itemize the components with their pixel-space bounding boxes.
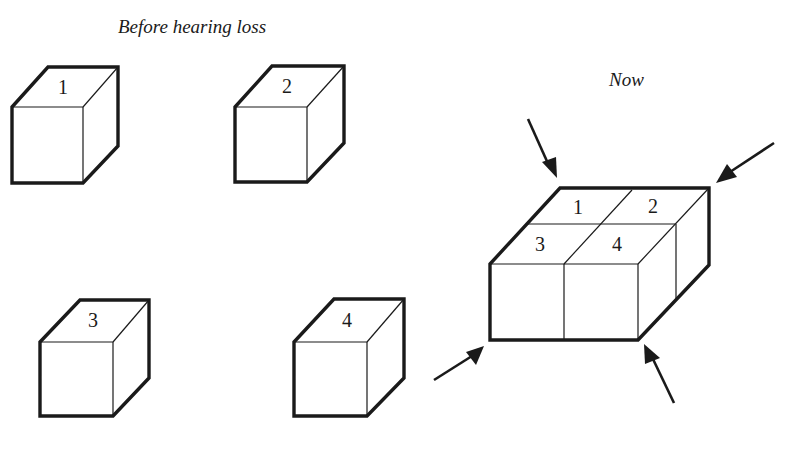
cube-4-label: 4 [342,309,352,331]
arrow-bottom-left [434,346,484,380]
arrowhead-icon [716,164,737,183]
merged-cell-3-label: 3 [535,233,545,255]
merged-cell-1-label: 1 [573,196,583,218]
cube-2: 2 [235,66,344,182]
merged-block: 1 2 3 4 [490,188,709,340]
hearing-loss-diagram: Before hearing loss Now 1 2 3 4 [0,0,796,449]
merged-cell-4-label: 4 [612,233,622,255]
cube-2-label: 2 [282,75,292,97]
arrowhead-icon [542,157,557,178]
cube-4: 4 [294,299,404,416]
cube-1: 1 [12,67,118,183]
now-caption: Now [608,69,644,90]
cube-3: 3 [40,300,149,416]
cube-1-label: 1 [58,76,68,98]
arrowhead-icon [466,346,484,365]
arrow-bottom-right [644,344,674,403]
merged-cell-2-label: 2 [648,195,658,217]
arrow-top-left [528,119,557,178]
before-caption: Before hearing loss [118,16,266,37]
arrowhead-icon [644,344,660,364]
cube-3-label: 3 [88,309,98,331]
arrow-top-right [716,143,774,183]
